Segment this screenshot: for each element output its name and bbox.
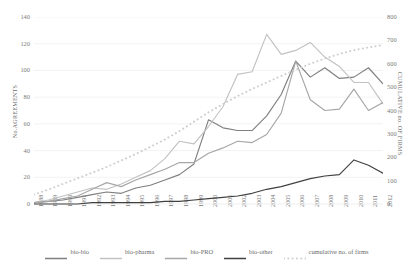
y-tick-left-100: 100 [8, 66, 30, 73]
y-tick-right-700: 700 [387, 36, 409, 43]
legend-label-bio-other: bio-other [249, 248, 272, 255]
legend-item-cumulative-no-of-firms[interactable]: cumulative no. of firms [284, 248, 369, 255]
y-tick-left-120: 120 [8, 40, 30, 47]
legend-item-bio-pharma[interactable]: bio-pharma [100, 248, 154, 255]
legend-swatch-bio-pharma [100, 248, 122, 255]
y-axis-right-title: CUMULATIVE no. OF FIRMS [397, 62, 404, 166]
y-tick-right-200: 200 [387, 153, 409, 160]
legend-swatch-bio-other [224, 248, 246, 255]
y-tick-right-300: 300 [387, 130, 409, 137]
legend-label-bio-pro: bio-PRO [190, 248, 213, 255]
legend-swatch-bio-pro [165, 248, 187, 255]
series-line-bio-pro [34, 61, 383, 203]
legend-swatch-cumulative-no-of-firms [284, 248, 306, 255]
y-tick-left-60: 60 [8, 120, 30, 127]
plot-area [34, 17, 383, 204]
legend-label-bio-pharma: bio-pharma [125, 248, 154, 255]
y-tick-left-40: 40 [8, 147, 30, 154]
legend-item-bio-pro[interactable]: bio-PRO [165, 248, 213, 255]
chart-figure: No.AGREEMENTS CUMULATIVE no. OF FIRMS 02… [0, 0, 414, 270]
legend-label-bio-bio: bio-bio [70, 248, 88, 255]
y-tick-left-80: 80 [8, 93, 30, 100]
y-tick-right-500: 500 [387, 83, 409, 90]
legend-swatch-bio-bio [45, 248, 67, 255]
series-line-bio-bio [34, 61, 383, 203]
legend-label-cumulative-no-of-firms: cumulative no. of firms [309, 248, 369, 255]
legend-item-bio-bio[interactable]: bio-bio [45, 248, 88, 255]
chart-legend: bio-biobio-pharmabio-PRObio-othercumulat… [0, 243, 414, 259]
y-tick-right-400: 400 [387, 107, 409, 114]
series-line-bio-other [34, 160, 383, 204]
y-tick-left-20: 20 [8, 173, 30, 180]
y-tick-right-800: 800 [387, 13, 409, 20]
y-tick-right-100: 100 [387, 177, 409, 184]
y-tick-left-0: 0 [8, 200, 30, 207]
y-tick-right-600: 600 [387, 60, 409, 67]
legend-item-bio-other[interactable]: bio-other [224, 248, 272, 255]
x-tick-2012: 2012 [386, 195, 393, 207]
y-tick-left-140: 140 [8, 13, 30, 20]
